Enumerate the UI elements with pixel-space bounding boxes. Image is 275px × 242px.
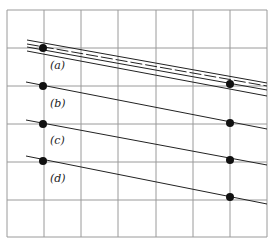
data-point [226,193,234,201]
data-point [39,44,47,52]
data-point [226,119,234,127]
panel-label: (b) [50,97,66,110]
data-point [226,156,234,164]
data-point [39,157,47,165]
data-point [226,80,234,88]
data-point [39,120,47,128]
panels: (a)(b)(c)(d) [26,40,267,204]
panel-label: (d) [50,172,66,185]
figure-canvas: (a)(b)(c)(d) [0,0,275,242]
data-point [39,82,47,90]
panel-label: (a) [50,59,65,72]
panel-label: (c) [50,134,65,147]
